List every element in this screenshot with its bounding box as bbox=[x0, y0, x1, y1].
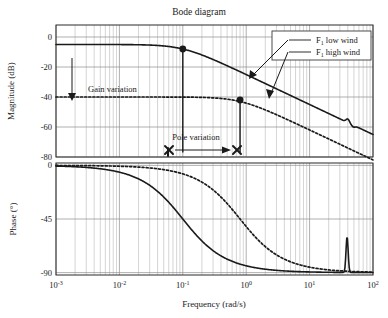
x-tick-label: 10-1 bbox=[176, 280, 190, 291]
bode-plot-svg: Bode diagram 0-20-40-60-80 Magnitude (dB… bbox=[0, 0, 388, 318]
gain-variation-label: Gain variation bbox=[88, 84, 138, 94]
pole-variation-arrowhead bbox=[222, 147, 231, 154]
pole-variation-label: Pole variation bbox=[172, 132, 220, 142]
magnitude-tick-label: -20 bbox=[41, 62, 52, 72]
legend: F1 low wind F1 high wind bbox=[249, 31, 371, 99]
x-tick-label: 10-2 bbox=[113, 280, 127, 291]
chart-title: Bode diagram bbox=[172, 7, 226, 17]
magnitude-y-tick-labels: 0-20-40-60-80 bbox=[41, 32, 52, 162]
phase-gridlines bbox=[56, 163, 373, 275]
gain-variation-annotation: Gain variation bbox=[68, 58, 138, 101]
phase-tick-label: -90 bbox=[41, 268, 52, 278]
phase-panel: 0-45-90 10-310-210-1100101102 Phase (°) … bbox=[8, 160, 379, 309]
corner-marker-dot bbox=[179, 46, 186, 53]
magnitude-tick-label: -60 bbox=[41, 122, 52, 132]
magnitude-tick-label: -40 bbox=[41, 92, 52, 102]
bode-diagram-figure: Bode diagram 0-20-40-60-80 Magnitude (dB… bbox=[0, 0, 388, 318]
phase-tick-label: -45 bbox=[41, 214, 52, 224]
magnitude-axis-label: Magnitude (dB) bbox=[6, 62, 16, 120]
magnitude-tick-label: 0 bbox=[48, 32, 52, 42]
x-axis-label: Frequency (rad/s) bbox=[182, 299, 246, 309]
x-tick-label: 101 bbox=[304, 280, 316, 291]
corner-marker-dot bbox=[237, 97, 244, 104]
magnitude-panel: 0-20-40-60-80 Magnitude (dB) Gain variat… bbox=[6, 25, 373, 162]
phase-y-tick-labels: 0-45-90 bbox=[41, 160, 52, 277]
phase-tick-label: 0 bbox=[48, 160, 52, 170]
x-tick-labels: 10-310-210-1100101102 bbox=[49, 280, 379, 291]
x-tick-label: 10-3 bbox=[49, 280, 63, 291]
phase-axis-label: Phase (°) bbox=[8, 203, 18, 236]
x-tick-label: 102 bbox=[367, 280, 379, 291]
x-tick-label: 100 bbox=[240, 280, 252, 291]
pole-variation-annotation: Pole variation bbox=[165, 132, 241, 156]
